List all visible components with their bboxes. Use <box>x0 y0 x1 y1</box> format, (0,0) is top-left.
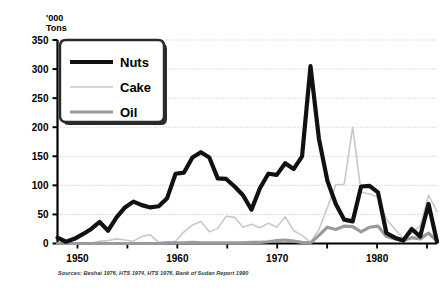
y-tick-label: 200 <box>32 122 49 133</box>
legend-label-cake: Cake <box>120 80 151 95</box>
source-note: Sources: Beshai 1976, HTS 1974, HTS 1976… <box>58 270 249 276</box>
y-tick-label: 0 <box>43 238 49 249</box>
y-tick-label: 100 <box>32 180 49 191</box>
chart-legend: NutsCakeOil <box>60 40 167 125</box>
y-axis-unit-line2: Tons <box>46 23 67 33</box>
y-tick-label: 150 <box>32 151 49 162</box>
y-tick-label: 300 <box>32 64 49 75</box>
production-line-chart: 050100150200250300350 1950196019701980 '… <box>0 0 442 291</box>
legend-label-oil: Oil <box>120 105 137 120</box>
x-tick-label: 1970 <box>266 253 289 264</box>
legend-label-nuts: Nuts <box>120 55 149 70</box>
x-tick-label: 1950 <box>66 253 89 264</box>
y-axis-unit-line1: '000 <box>46 13 63 23</box>
y-tick-label: 250 <box>32 93 49 104</box>
x-tick-label: 1960 <box>166 253 189 264</box>
y-tick-label: 350 <box>32 35 49 46</box>
y-tick-label: 50 <box>37 209 49 220</box>
x-tick-label: 1980 <box>366 253 389 264</box>
